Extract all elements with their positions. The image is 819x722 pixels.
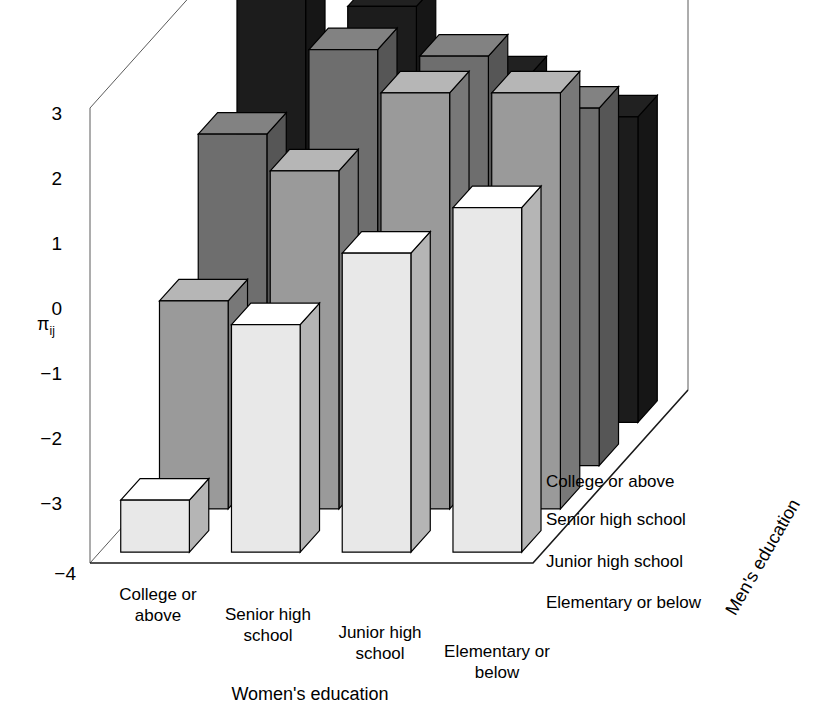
bars-group [121,0,658,552]
y-tick-label: 0 [51,298,62,319]
y-tick-label: 1 [51,233,62,254]
z-category-label: Junior high school [546,552,683,571]
left-top-slant [90,0,245,108]
bar-side-face [599,87,618,466]
bar-side-face [638,95,657,422]
x-category-label: below [475,663,520,682]
y-tick-label: 3 [51,103,62,124]
bar-side-face [300,303,319,552]
x-category-label: Senior high [225,605,311,624]
bar-side-face [560,71,579,509]
z-axis-title: Men's education [722,495,805,618]
bar [453,186,541,552]
y-tick-label: −4 [54,563,76,584]
bar-side-face [411,232,430,553]
bar [231,303,319,552]
bar-side-face [522,186,541,552]
bar-front-face [159,301,228,509]
bar-front-face [121,500,190,552]
x-axis-title: Women's education [231,684,388,704]
chart-root: 3210−1−2−3−4πijCollege oraboveSenior hig… [0,0,819,722]
z-category-label: College or above [546,472,675,491]
x-category-label: school [243,626,292,645]
y-tick-label: 2 [51,168,62,189]
bar-front-face [231,325,300,553]
bar [121,479,209,553]
y-tick-label: −2 [40,428,62,449]
bar-front-face [453,208,522,553]
x-category-label: Junior high [338,623,421,642]
three-d-bar-chart: 3210−1−2−3−4πijCollege oraboveSenior hig… [0,0,819,722]
x-category-label: school [355,644,404,663]
x-category-label: above [135,606,181,625]
bar [342,232,430,553]
bar-front-face [342,253,411,552]
x-category-label: College or [119,585,197,604]
y-tick-label: −1 [40,363,62,384]
x-category-label: Elementary or [444,642,550,661]
y-tick-label: −3 [40,493,62,514]
z-category-label: Elementary or below [546,593,702,612]
z-category-label: Senior high school [546,510,686,529]
